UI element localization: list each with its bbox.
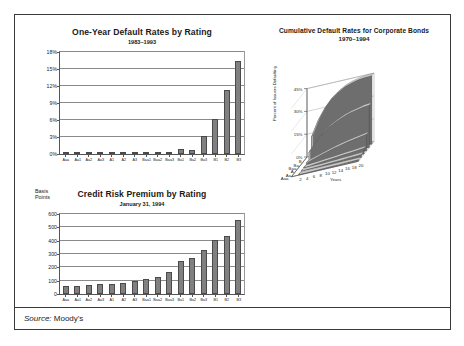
- x-tick-label: Aa1: [72, 294, 83, 302]
- chart-one-year-default-rates: One-Year Default Rates by Rating 1983–19…: [33, 23, 251, 183]
- chart1-x-labels: AaaAa1Aa2Aa3A1A2A3Baa1Baa2Baa3Ba1Ba2Ba3B…: [60, 154, 244, 162]
- bar-column: [187, 214, 199, 294]
- bar: [86, 285, 92, 294]
- bar-column: [141, 214, 153, 294]
- y-tick-mark: [57, 137, 60, 138]
- x-tick-label: Ba1: [175, 294, 186, 302]
- year-tick-label: 4: [306, 175, 308, 180]
- bar: [235, 220, 241, 294]
- x-tick-label: Ba3: [198, 154, 209, 162]
- bar: [201, 136, 207, 154]
- y-tick-mark: [57, 69, 60, 70]
- y-tick-label: 12%: [47, 83, 57, 89]
- bar-column: [221, 52, 233, 154]
- bar: [120, 283, 126, 294]
- bar-column: [152, 214, 164, 294]
- chart3-title: Cumulative Default Rates for Corporate B…: [259, 27, 449, 34]
- x-tick-label: B1: [210, 154, 221, 162]
- source-text: Source: Moody's: [24, 314, 83, 323]
- y-tick-label: 15%: [47, 66, 57, 72]
- bar-column: [221, 214, 233, 294]
- value-tick-label: 45%: [294, 86, 303, 91]
- x-tick-label: A2: [118, 294, 129, 302]
- y-tick-label: 500: [48, 224, 57, 230]
- bar: [224, 236, 230, 294]
- x-tick-label: Aa1: [72, 154, 83, 162]
- year-tick-label: 16: [345, 166, 350, 171]
- x-tick-label: Baa2: [152, 154, 163, 162]
- bar-column: [83, 52, 95, 154]
- bar: [63, 286, 69, 294]
- y-tick-label: 400: [48, 238, 57, 244]
- bar-column: [118, 214, 130, 294]
- x-tick-label: Aa3: [95, 154, 106, 162]
- x-tick-label: A2: [118, 154, 129, 162]
- x-tick-label: A1: [106, 154, 117, 162]
- x-tick-label: Baa3: [164, 154, 175, 162]
- chart1-title: One-Year Default Rates by Rating: [33, 27, 251, 37]
- bar-column: [198, 52, 210, 154]
- y-tick-mark: [57, 254, 60, 255]
- chart3-subtitle: 1970–1994: [259, 35, 449, 42]
- chart1-bars: [60, 52, 244, 154]
- x-tick-label: B3: [233, 294, 244, 302]
- chart2-bars: [60, 214, 244, 294]
- x-tick-label: Baa2: [152, 294, 163, 302]
- year-tick-label: 2: [299, 177, 301, 182]
- x-tick-label: Ba2: [187, 294, 198, 302]
- y-tick-mark: [57, 267, 60, 268]
- y-tick-mark: [57, 281, 60, 282]
- y-tick-label: 300: [48, 251, 57, 257]
- chart2-plot-area: AaaAa1Aa2Aa3A1A2A3Baa1Baa2Baa3Ba1Ba2Ba3B…: [59, 213, 245, 295]
- x-tick-label: A1: [106, 294, 117, 302]
- bar-column: [152, 52, 164, 154]
- x-tick-label: Ba3: [198, 294, 209, 302]
- source-value: Moody's: [52, 314, 84, 323]
- source-footer: Source: Moody's: [15, 307, 450, 329]
- bar: [166, 272, 172, 294]
- bar-column: [106, 214, 118, 294]
- year-tick-label: 14: [338, 167, 343, 172]
- bar-column: [60, 214, 72, 294]
- year-tick-label: 8: [319, 172, 321, 177]
- chart-credit-risk-premium: Basis Points Credit Risk Premium by Rati…: [33, 187, 251, 319]
- bar-column: [164, 214, 176, 294]
- figure-frame: One-Year Default Rates by Rating 1983–19…: [14, 14, 451, 330]
- chart2-x-labels: AaaAa1Aa2Aa3A1A2A3Baa1Baa2Baa3Ba1Ba2Ba3B…: [60, 294, 244, 302]
- chart3-plot-area: Percent of Issuers Defaulting 0%15%30%45…: [259, 45, 449, 197]
- y-tick-mark: [57, 52, 60, 53]
- bar: [212, 119, 218, 154]
- bar: [109, 284, 115, 294]
- year-tick-label: 6: [313, 174, 315, 179]
- x-tick-label: Aa2: [83, 154, 94, 162]
- x-tick-label: A3: [129, 294, 140, 302]
- x-tick-label: Ba1: [175, 154, 186, 162]
- year-tick-label: 10: [325, 171, 330, 176]
- chart1-plot-area: AaaAa1Aa2Aa3A1A2A3Baa1Baa2Baa3Ba1Ba2Ba3B…: [59, 51, 245, 155]
- y-tick-label: 200: [48, 264, 57, 270]
- bar: [143, 279, 149, 294]
- y-tick-mark: [57, 86, 60, 87]
- x-tick-label: Aa3: [95, 294, 106, 302]
- rating-tick-label: A: [291, 169, 294, 174]
- bar: [97, 284, 103, 294]
- bar-column: [95, 52, 107, 154]
- bar-column: [83, 214, 95, 294]
- bar-column: [233, 214, 245, 294]
- bar-column: [198, 214, 210, 294]
- bar: [132, 281, 138, 294]
- x-tick-label: Baa3: [164, 294, 175, 302]
- x-tick-label: Aaa: [60, 154, 71, 162]
- bar-column: [233, 52, 245, 154]
- bar: [201, 250, 207, 294]
- x-tick-label: Aaa: [60, 294, 71, 302]
- x-tick-label: B1: [210, 294, 221, 302]
- value-tick-label: 15%: [294, 132, 303, 137]
- y-tick-mark: [57, 120, 60, 121]
- rating-tick-label: Aaa: [281, 175, 289, 180]
- year-tick-label: 18: [352, 164, 357, 169]
- chart2-axis-name-line2: Points: [35, 194, 50, 200]
- bar: [235, 61, 241, 155]
- bar-column: [175, 52, 187, 154]
- chart2-title: Credit Risk Premium by Rating: [33, 189, 251, 199]
